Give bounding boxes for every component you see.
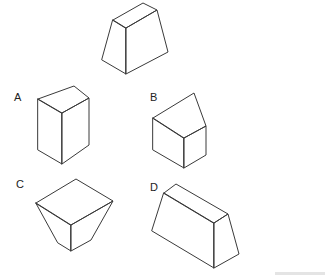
option-c-left-face: [36, 203, 71, 251]
option-d-front-face: [152, 193, 214, 268]
option-b-top-face: [153, 93, 206, 138]
reference-shape: [102, 3, 168, 74]
diagram-canvas: A B C D: [0, 0, 327, 279]
option-b-label: B: [150, 91, 157, 103]
option-d-right-face: [214, 214, 239, 268]
reference-right-face: [126, 10, 168, 74]
option-d-top-face: [164, 184, 228, 223]
option-a-top-face: [38, 86, 89, 113]
option-d[interactable]: D: [150, 181, 239, 268]
option-a[interactable]: A: [14, 86, 89, 164]
option-c-top-face: [36, 179, 113, 225]
scroll-indicator: [275, 272, 325, 275]
option-b[interactable]: B: [150, 91, 206, 168]
option-c-label: C: [16, 178, 24, 190]
option-d-label: D: [150, 181, 158, 193]
option-a-right-face: [62, 98, 89, 164]
option-c[interactable]: C: [16, 178, 113, 251]
option-b-left-face: [153, 118, 184, 168]
option-a-left-face: [38, 99, 62, 164]
option-a-label: A: [14, 91, 22, 103]
option-c-right-face: [71, 201, 113, 251]
reference-left-face: [102, 20, 126, 74]
option-b-right-face: [184, 126, 206, 168]
